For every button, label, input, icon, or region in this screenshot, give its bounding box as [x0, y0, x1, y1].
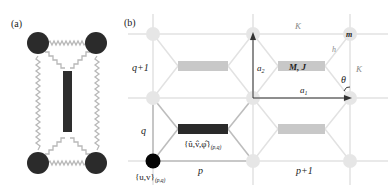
- spring-bottom: [48, 161, 86, 165]
- col-label-p-plus-1: p+1: [295, 165, 313, 176]
- node-dof-label: {u,v}(p,q): [135, 172, 166, 184]
- node: [146, 91, 160, 105]
- panel-b: (b): [124, 14, 388, 185]
- vector-a1-label: a1: [300, 85, 308, 96]
- rigid-bar: [63, 71, 72, 132]
- mass-bottom-right: [85, 152, 107, 174]
- spring-label-K-vertical: K: [355, 64, 363, 74]
- mass-top-right: [85, 32, 107, 54]
- row-label-q-plus-1: q+1: [132, 62, 149, 73]
- vector-a2-label: a2: [257, 63, 265, 74]
- mass-bottom-left: [27, 152, 49, 174]
- element-pq-highlighted: [178, 124, 228, 134]
- mass-top-left: [27, 32, 49, 54]
- spring-top: [48, 41, 86, 45]
- node: [343, 154, 357, 168]
- figure: (a) (b): [0, 0, 388, 193]
- panel-a-label: (a): [11, 18, 22, 30]
- spring-diag-tl: [45, 52, 65, 68]
- node: [246, 154, 260, 168]
- spring-right: [95, 56, 99, 150]
- spring-left: [36, 56, 40, 150]
- spring-label-h: h: [332, 45, 336, 54]
- spring-diag-tr: [70, 52, 90, 68]
- row-label-q: q: [141, 125, 146, 136]
- spring-label-K-horizontal: K: [294, 21, 302, 31]
- spring-diag-br: [70, 138, 90, 154]
- node: [146, 27, 160, 41]
- col-label-p: p: [197, 165, 203, 176]
- element-label-MJ: M, J: [288, 62, 307, 72]
- panel-b-label: (b): [124, 17, 136, 29]
- angle-label-theta: θ: [341, 74, 346, 85]
- spring-diag-bl: [45, 138, 65, 154]
- element-dof-label: {û,v̂,φ̂}(p,q): [184, 139, 221, 151]
- mass-label-m: m: [346, 30, 352, 39]
- element-lower-right: [278, 124, 325, 134]
- element-upper-left: [178, 61, 228, 71]
- node-pq-highlighted: [146, 154, 161, 169]
- panel-a: (a): [11, 18, 107, 174]
